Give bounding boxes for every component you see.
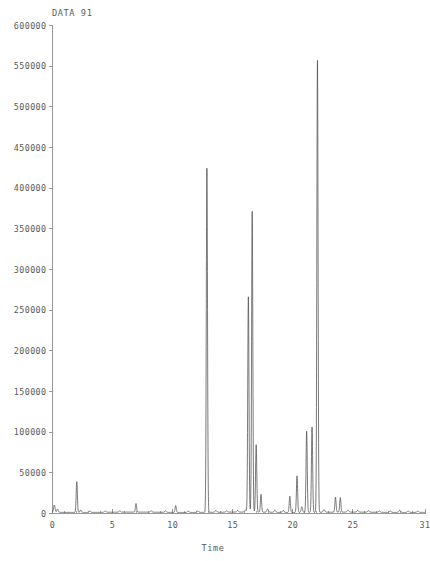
labels-layer: 0500001000001500002000002500003000003500… (14, 21, 430, 530)
chart-title: DATA 91 (52, 8, 92, 18)
y-tick-label: 600000 (14, 21, 47, 31)
y-tick-label: 500000 (14, 102, 47, 112)
y-tick-label: 400000 (14, 183, 47, 193)
y-tick-label: 300000 (14, 265, 47, 275)
x-tick-label: 10 (167, 520, 178, 530)
x-tick-label: 20 (287, 520, 298, 530)
trace-layer (53, 60, 426, 512)
x-tick-label: 31 (420, 520, 430, 530)
y-tick-label: 250000 (14, 305, 47, 315)
y-tick-label: 350000 (14, 224, 47, 234)
y-tick-label: 550000 (14, 61, 47, 71)
axes-layer (53, 26, 426, 514)
x-tick-label: 15 (227, 520, 238, 530)
chromatogram-trace (53, 60, 426, 512)
y-tick-label: 100000 (14, 427, 47, 437)
y-tick-label: 200000 (14, 346, 47, 356)
x-tick-label: 5 (110, 520, 115, 530)
y-tick-label: 0 (41, 509, 46, 519)
y-tick-label: 150000 (14, 387, 47, 397)
y-tick-label: 50000 (19, 468, 46, 478)
x-tick-label: 25 (347, 520, 358, 530)
x-tick-label: 0 (50, 520, 55, 530)
chart-canvas: 0500001000001500002000002500003000003500… (0, 0, 430, 561)
y-tick-label: 450000 (14, 143, 47, 153)
ticks-layer (49, 26, 425, 514)
chromatogram-chart: 0500001000001500002000002500003000003500… (0, 0, 430, 561)
x-axis-title: Time (201, 543, 224, 553)
